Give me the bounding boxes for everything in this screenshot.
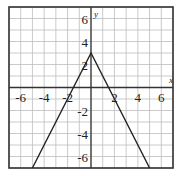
x-tick-label: 4 [135, 90, 142, 105]
y-tick-label: -6 [77, 150, 88, 165]
y-tick-label: 4 [82, 35, 89, 50]
axes [9, 7, 173, 168]
y-tick-label: -2 [77, 104, 88, 119]
graph: -6-4-2246-6-4-2246 x y [0, 0, 180, 176]
x-tick-label: -6 [15, 90, 26, 105]
y-tick-label: -4 [77, 127, 88, 142]
y-axis-label: y [93, 9, 98, 19]
x-tick-label: -4 [39, 90, 50, 105]
x-axis-label: x [168, 75, 173, 85]
y-tick-label: 6 [82, 12, 89, 27]
x-tick-label: 6 [158, 90, 165, 105]
